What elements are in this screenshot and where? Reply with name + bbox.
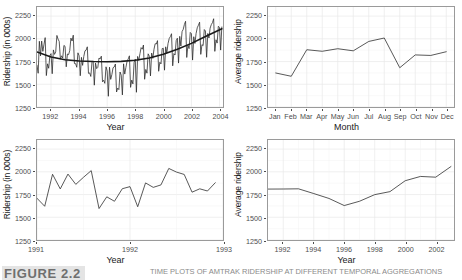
x-tick-mark [107, 109, 108, 111]
x-tick-label: 1992 [42, 112, 58, 121]
x-tick-mark [164, 109, 165, 111]
x-tick-label: Nov [425, 112, 438, 121]
x-tick-mark [50, 109, 51, 111]
x-tick-mark [306, 109, 307, 111]
y-tick-mark [33, 38, 35, 39]
plot-area-average-by-month [267, 6, 455, 108]
x-tick-mark [192, 109, 193, 111]
x-tick-mark [79, 109, 80, 111]
y-tick-mark [264, 62, 266, 63]
y-tick-mark [33, 195, 35, 196]
y-tick-mark [264, 108, 266, 109]
y-tick-mark [33, 148, 35, 149]
x-tick-label: 1998 [367, 245, 383, 254]
figure-caption: FIGURE 2.2 TIME PLOTS OF AMTRAK RIDERSHI… [0, 266, 462, 280]
y-tick-label: 1750 [0, 57, 31, 66]
x-axis-title: Year [0, 255, 231, 265]
figure-panel-grid: Ridership (in 000s) Year 125015001750200… [0, 0, 462, 266]
x-tick-label: Aug [378, 112, 391, 121]
x-tick-mark [447, 109, 448, 111]
y-tick-mark [264, 15, 266, 16]
x-tick-label: 1996 [336, 245, 352, 254]
y-tick-mark [264, 195, 266, 196]
x-tick-mark [313, 242, 314, 244]
x-tick-mark [406, 242, 407, 244]
chart-panel-average-by-month: Average ridership Month 1250150017502000… [231, 0, 462, 133]
y-tick-label: 1500 [231, 80, 262, 89]
x-tick-label: 1998 [127, 112, 143, 121]
y-tick-label: 2250 [231, 144, 262, 153]
x-tick-label: Feb [284, 112, 296, 121]
x-tick-label: May [331, 112, 345, 121]
x-tick-mark [416, 109, 417, 111]
y-tick-label: 1750 [231, 57, 262, 66]
x-axis-title: Year [231, 255, 462, 265]
x-axis-title: Year [0, 122, 231, 132]
x-tick-label: 2002 [429, 245, 445, 254]
x-tick-label: Apr [316, 112, 327, 121]
y-tick-label: 2250 [231, 11, 262, 20]
y-tick-label: 2000 [231, 167, 262, 176]
x-tick-mark [282, 242, 283, 244]
x-tick-mark [224, 242, 225, 244]
y-tick-mark [33, 218, 35, 219]
y-tick-mark [33, 62, 35, 63]
x-tick-label: 1994 [71, 112, 87, 121]
x-tick-mark [385, 109, 386, 111]
y-tick-mark [264, 171, 266, 172]
y-tick-label: 1250 [0, 104, 31, 113]
x-tick-label: 1992 [274, 245, 290, 254]
y-tick-label: 1500 [0, 80, 31, 89]
x-tick-mark [36, 242, 37, 244]
y-tick-label: 1500 [0, 213, 31, 222]
x-tick-mark [400, 109, 401, 111]
x-tick-mark [291, 109, 292, 111]
x-axis-title: Month [231, 122, 462, 132]
chart-panel-monthly-zoom: Ridership (in 000s) Year 125015001750200… [0, 133, 231, 266]
chart-panel-monthly-full: Ridership (in 000s) Year 125015001750200… [0, 0, 231, 133]
x-tick-mark [220, 109, 221, 111]
figure-caption-label: FIGURE 2.2 [2, 266, 85, 280]
y-tick-mark [264, 218, 266, 219]
y-tick-mark [33, 108, 35, 109]
y-tick-mark [264, 38, 266, 39]
y-tick-label: 1500 [231, 213, 262, 222]
x-tick-mark [375, 242, 376, 244]
x-tick-label: Jul [364, 112, 373, 121]
x-tick-label: Dec [441, 112, 454, 121]
plot-area-average-by-year [267, 139, 455, 241]
y-tick-label: 1750 [231, 190, 262, 199]
x-tick-mark [437, 242, 438, 244]
figure-caption-text: TIME PLOTS OF AMTRAK RIDERSHIP AT DIFFER… [150, 267, 442, 276]
y-tick-mark [33, 171, 35, 172]
x-tick-label: 2004 [212, 112, 228, 121]
y-axis-title: Ridership (in 000s) [0, 118, 14, 251]
y-tick-label: 2000 [0, 167, 31, 176]
y-tick-mark [264, 148, 266, 149]
x-tick-mark [135, 109, 136, 111]
y-tick-label: 1750 [0, 190, 31, 199]
x-tick-mark [369, 109, 370, 111]
x-tick-label: 1996 [99, 112, 115, 121]
x-tick-mark [130, 242, 131, 244]
x-tick-mark [432, 109, 433, 111]
x-tick-label: 2002 [184, 112, 200, 121]
x-tick-label: 2000 [398, 245, 414, 254]
x-tick-mark [322, 109, 323, 111]
y-tick-label: 2250 [0, 11, 31, 20]
y-tick-label: 2000 [0, 34, 31, 43]
y-tick-mark [264, 85, 266, 86]
y-tick-mark [264, 241, 266, 242]
y-tick-mark [33, 241, 35, 242]
x-tick-label: Sep [394, 112, 407, 121]
chart-panel-average-by-year: Average ridership Year 12501500175020002… [231, 133, 462, 266]
y-tick-label: 1250 [0, 237, 31, 246]
plot-area-monthly-full [36, 6, 224, 108]
y-axis-title: Average ridership [231, 118, 245, 251]
y-tick-label: 1250 [231, 104, 262, 113]
x-tick-label: 2000 [156, 112, 172, 121]
y-tick-label: 1250 [231, 237, 262, 246]
x-tick-mark [344, 242, 345, 244]
x-tick-mark [275, 109, 276, 111]
x-tick-label: 1993 [216, 245, 232, 254]
